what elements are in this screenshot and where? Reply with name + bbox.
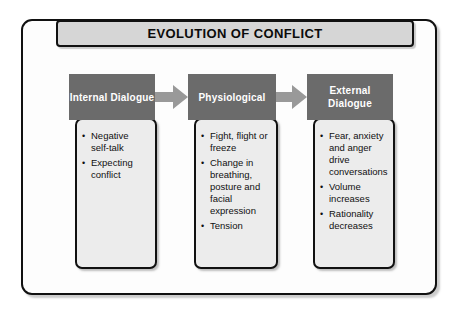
list-item: Change in breathing, posture and facial … <box>201 157 270 217</box>
evolution-of-conflict-diagram: EVOLUTION OF CONFLICT Internal Dialogue … <box>0 0 461 316</box>
bullet-list-physiological: Fight, flight or freeze Change in breath… <box>201 130 270 232</box>
stage-physiological: Physiological Fight, flight or freeze Ch… <box>188 74 276 269</box>
list-item: Volume increases <box>320 181 387 205</box>
stage-header-physiological: Physiological <box>188 74 276 120</box>
stage-body-external-dialogue: Fear, anxiety and anger drive conversati… <box>313 118 395 269</box>
list-item: Fight, flight or freeze <box>201 130 270 154</box>
arrow-right-icon <box>274 83 307 111</box>
list-item: Expecting conflict <box>82 157 149 181</box>
arrow-right-icon <box>155 83 188 111</box>
diagram-title-bar: EVOLUTION OF CONFLICT <box>56 20 414 47</box>
list-item: Tension <box>201 220 270 232</box>
stage-header-external-dialogue: External Dialogue <box>307 74 393 120</box>
stage-internal-dialogue: Internal Dialogue Negative self-talk Exp… <box>69 74 155 269</box>
bullet-list-external-dialogue: Fear, anxiety and anger drive conversati… <box>320 130 387 232</box>
list-item: Negative self-talk <box>82 130 149 154</box>
list-item: Fear, anxiety and anger drive conversati… <box>320 130 387 178</box>
stage-header-internal-dialogue: Internal Dialogue <box>69 74 155 120</box>
bullet-list-internal-dialogue: Negative self-talk Expecting conflict <box>82 130 149 181</box>
page-title: EVOLUTION OF CONFLICT <box>147 26 322 41</box>
list-item: Rationality decreases <box>320 208 387 232</box>
stage-body-physiological: Fight, flight or freeze Change in breath… <box>194 118 278 269</box>
stage-external-dialogue: External Dialogue Fear, anxiety and ange… <box>307 74 393 269</box>
stage-body-internal-dialogue: Negative self-talk Expecting conflict <box>75 118 157 269</box>
